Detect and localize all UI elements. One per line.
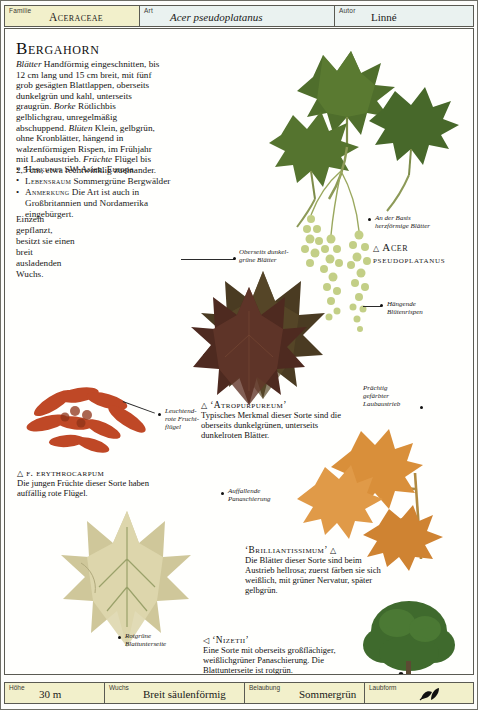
wuchs-key-label: Wuchs xyxy=(109,684,129,691)
triangle-marker-brilliantissimum: △ xyxy=(330,546,336,555)
familie-value: Aceraceae xyxy=(49,12,103,26)
caption-acer-pseudoplatanus: △ Acer pseudoplatanus xyxy=(373,242,445,265)
caption-erythrocarpum: △ f. erythrocarpum Die jungen Früchte di… xyxy=(17,469,157,499)
footer-cell-laubform: Laubform xyxy=(365,683,473,703)
art-value: Acer pseudoplatanus xyxy=(170,12,263,25)
header-cell-familie: Familie Aceraceae xyxy=(5,6,140,26)
leaf-pair-icon xyxy=(419,687,441,702)
page-title: Bergahorn xyxy=(16,39,99,59)
label-oberseits-dunkelgruene: Oberseits dunkel- grüne Blätter xyxy=(239,248,331,264)
caption-brilliantissimum: ‘Brilliantissimum’ △ Die Blätter dieser … xyxy=(245,546,391,595)
hoehe-key-label: Höhe xyxy=(9,684,25,691)
pointer-dot-haengende xyxy=(380,304,383,307)
human-scale-figure xyxy=(395,671,407,675)
pointer-dot-praechtig xyxy=(420,406,423,409)
familie-key-label: Familie xyxy=(9,7,31,14)
pointer-dot-basis xyxy=(368,218,371,221)
header-bar: Familie Aceraceae Art Acer pseudoplatanu… xyxy=(4,5,474,27)
belaubung-value: Sommergrün xyxy=(299,689,356,702)
caption-body-erythrocarpum: Die jungen Früchte dieser Sorte haben au… xyxy=(17,478,149,498)
art-key-label: Art xyxy=(144,7,153,14)
term-borke: Borke xyxy=(54,101,76,111)
label-rotgruene-blattunterseite: Rotgrüne Blattunterseite xyxy=(125,632,201,648)
bullet-key-lebensraum: Lebensraum xyxy=(25,176,71,186)
bullet-key-herkunft: Herkunft xyxy=(25,164,62,174)
pointer-dot-auffallende xyxy=(221,492,224,495)
bullet-key-anmerkung: Anmerkung xyxy=(25,187,69,197)
footer-cell-belaubung: Belaubung Sommergrün xyxy=(245,683,365,703)
term-blueten: Blüten xyxy=(69,123,93,133)
caption-body-atropurpureum: Typisches Merkmal dieser Sorte sind die … xyxy=(201,410,341,440)
footer-cell-hoehe: Höhe 30 m xyxy=(5,683,105,703)
wuchs-value: Breit säulenförmig xyxy=(143,689,226,702)
plate-area: Bergahorn Blätter Handförmig eingeschnit… xyxy=(4,28,474,675)
label-praechtig-gefaerbter: Prächtig gefärbter Laubaustrieb xyxy=(363,384,433,409)
belaubung-key-label: Belaubung xyxy=(249,684,280,691)
label-an-der-basis: An der Basis herzförmige Blätter xyxy=(375,214,474,230)
hoehe-value: 30 m xyxy=(39,689,61,702)
list-item: Herkunft SW-Asien, Europa xyxy=(16,164,176,175)
header-cell-autor: Autor Linné xyxy=(335,6,473,26)
bullet-text-herkunft: SW-Asien, Europa xyxy=(62,164,133,174)
caption-body-brilliantissimum: Die Blätter dieser Sorte sind beim Austr… xyxy=(245,555,381,594)
leader-line-oberseits xyxy=(181,259,235,260)
label-haengende-bluetenrispen: Hängende Blütenrispen xyxy=(387,300,474,316)
field-guide-page: Familie Aceraceae Art Acer pseudoplatanu… xyxy=(0,0,478,710)
specimen-tree-habit xyxy=(357,595,462,675)
pointer-dot-rotgruene xyxy=(118,636,121,639)
term-fruechte: Früchte xyxy=(83,154,112,164)
intro-paragraph: Blätter Handförmig eingeschnitten, bis 1… xyxy=(16,59,164,176)
fact-bullet-list: Herkunft SW-Asien, Europa Lebensraum Som… xyxy=(16,164,176,221)
pointer-dot-leuchtend xyxy=(158,413,161,416)
triangle-marker-species: △ xyxy=(373,244,380,253)
triangle-marker-erythrocarpum: △ xyxy=(17,469,23,478)
label-auffallende-panaschierung: Auffallende Panaschierung xyxy=(228,487,312,503)
term-blaetter: Blätter xyxy=(16,59,42,69)
footer-cell-wuchs: Wuchs Breit säulenförmig xyxy=(105,683,245,703)
specimen-erythrocarpum-fruits xyxy=(23,377,153,465)
caption-body-nizetii: Eine Sorte mit oberseits großflächiger, … xyxy=(203,645,336,675)
narrow-continuation-text: Einzeln gepflanzt, besitzt sie einen bre… xyxy=(16,214,76,280)
triangle-marker-nizetii: ◁ xyxy=(203,636,209,645)
caption-atropurpureum: △ ‘Atropurpureum’ Typisches Merkmal dies… xyxy=(201,401,353,441)
triangle-marker-atropurpureum: △ xyxy=(201,401,207,410)
autor-value: Linné xyxy=(371,12,397,25)
laubform-key-label: Laubform xyxy=(369,684,396,691)
pointer-dot-oberseits xyxy=(233,257,236,260)
autor-key-label: Autor xyxy=(339,7,356,14)
specimen-atropurpureum-leaf xyxy=(191,281,311,411)
list-item: Lebensraum Sommergrüne Bergwälder xyxy=(16,176,176,187)
footer-bar: Höhe 30 m Wuchs Breit säulenförmig Belau… xyxy=(4,682,474,704)
caption-nizetii: ◁ ‘Nizetii’ Eine Sorte mit oberseits gro… xyxy=(203,636,339,675)
header-cell-art: Art Acer pseudoplatanus xyxy=(140,6,335,26)
leader-line-haengende xyxy=(363,306,381,307)
bullet-text-lebensraum: Sommergrüne Bergwälder xyxy=(71,176,170,186)
